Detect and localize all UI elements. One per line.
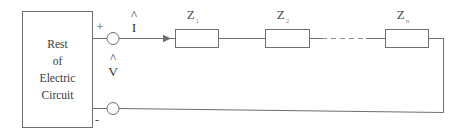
rest-of-circuit-line-1: Rest <box>47 38 68 50</box>
impedance-label-zn: Zn <box>397 7 410 25</box>
impedance-label-z1: Z1 <box>187 7 200 25</box>
rest-of-circuit-line-3: Electric <box>40 72 76 84</box>
current-label: I <box>132 20 137 35</box>
negative-sign-label: - <box>95 113 99 127</box>
impedance-label-z2: Z2 <box>277 7 290 25</box>
positive-terminal-node <box>107 33 119 45</box>
rest-of-circuit-box <box>23 12 93 128</box>
impedance-box-zn <box>386 30 429 48</box>
circuit-diagram-canvas: Rest of Electric Circuit + ^ I ^ V - Z1 <box>0 0 469 139</box>
impedance-box-z1 <box>176 30 219 48</box>
voltage-hat-accent: ^ <box>110 50 116 65</box>
impedance-box-z2 <box>266 30 310 48</box>
current-arrow-head-icon <box>163 35 171 42</box>
right-return-wire <box>429 39 444 113</box>
positive-sign-label: + <box>97 20 104 34</box>
rest-of-circuit-line-2: of <box>53 55 63 67</box>
rest-of-circuit-line-4: Circuit <box>42 89 75 101</box>
negative-terminal-node <box>107 103 119 115</box>
voltage-label: V <box>108 64 118 79</box>
bottom-return-wire <box>119 109 444 113</box>
